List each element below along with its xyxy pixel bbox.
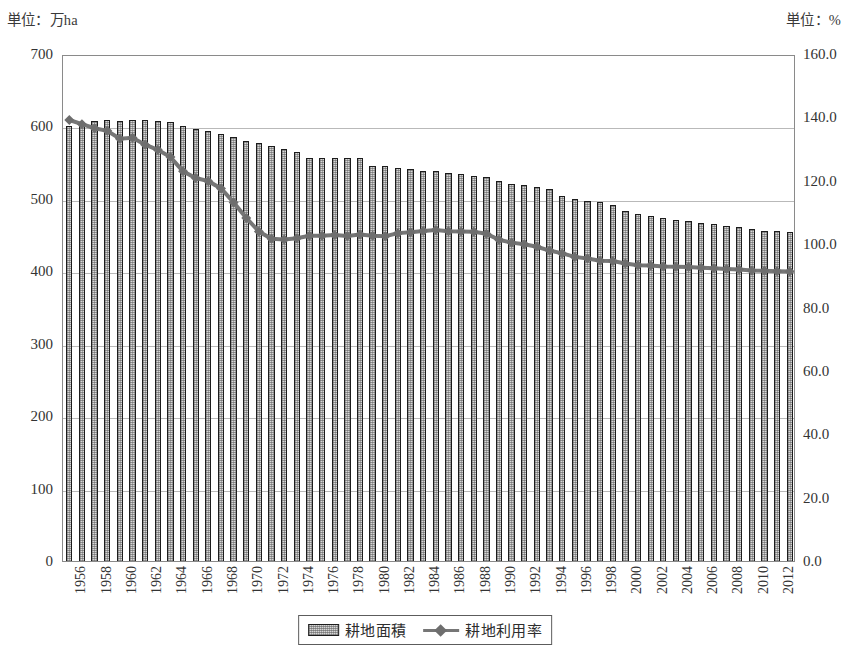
line-marker-diamond	[380, 231, 390, 241]
line-marker-diamond	[658, 261, 668, 271]
x-axis-tick-label: 1956	[74, 566, 88, 594]
line-marker-diamond	[747, 266, 757, 276]
right-axis-unit-label: 単位：%	[786, 8, 841, 29]
left-axis-unit-label: 単位：万ha	[7, 8, 78, 29]
line-marker-diamond	[330, 230, 340, 240]
legend-label-line: 耕地利用率	[465, 619, 542, 640]
line-marker-diamond	[646, 260, 656, 270]
right-axis-tick-label: 40.0	[803, 427, 829, 442]
line-marker-diamond	[77, 119, 87, 129]
line-marker-diamond	[633, 260, 643, 270]
x-axis-tick-label: 1968	[226, 566, 240, 594]
right-axis-tick-label: 60.0	[803, 364, 829, 379]
line-marker-diamond	[64, 115, 74, 125]
x-axis-tick-label: 2008	[731, 566, 745, 594]
line-marker-diamond	[368, 231, 378, 241]
line-marker-diamond	[456, 227, 466, 237]
right-axis-tick-label: 100.0	[803, 237, 837, 252]
line-marker-diamond	[90, 123, 100, 133]
line-marker-diamond	[785, 266, 795, 276]
x-axis-tick-label: 1962	[150, 566, 164, 594]
line-series-layer	[63, 56, 794, 561]
left-axis-tick-label: 300	[31, 337, 54, 352]
x-axis-tick-label: 1988	[479, 566, 493, 594]
line-marker-diamond	[507, 238, 517, 248]
right-axis-tick-label: 80.0	[803, 301, 829, 316]
right-axis-tick-label: 0.0	[803, 554, 822, 569]
x-axis-tick-label: 1994	[555, 566, 569, 594]
left-axis-tick-label: 0	[46, 554, 54, 569]
x-axis-tick-label: 1974	[302, 566, 316, 594]
x-axis-tick-label: 1992	[529, 566, 543, 594]
x-axis-tick-label: 1980	[378, 566, 392, 594]
line-marker-diamond	[557, 248, 567, 258]
x-axis-tick-label: 1978	[352, 566, 366, 594]
x-axis-tick-label: 1998	[605, 566, 619, 594]
line-series-svg	[63, 56, 795, 562]
left-axis-tick-label: 600	[31, 119, 54, 134]
x-axis-tick-label: 1966	[201, 566, 215, 594]
x-axis-tick-label: 1958	[100, 566, 114, 594]
line-marker-diamond	[393, 228, 403, 238]
line-marker-diamond	[342, 231, 352, 241]
left-axis-ticks: 0100200300400500600700	[0, 55, 53, 562]
line-marker-diamond	[696, 263, 706, 273]
x-axis-tick-label: 2000	[630, 566, 644, 594]
bar-swatch-icon	[308, 624, 339, 636]
line-marker-diamond	[519, 239, 529, 249]
x-axis-tick-label: 1970	[251, 566, 265, 594]
x-axis-tick-label: 1984	[428, 566, 442, 594]
legend-entry-bar: 耕地面積	[308, 619, 406, 640]
x-axis-tick-label: 1972	[277, 566, 291, 594]
line-marker-diamond	[279, 234, 289, 244]
legend-label-bar: 耕地面積	[345, 619, 406, 640]
right-axis-tick-label: 160.0	[803, 47, 837, 62]
line-marker-diamond	[759, 266, 769, 276]
right-axis-tick-label: 20.0	[803, 491, 829, 506]
x-axis-tick-label: 2004	[681, 566, 695, 594]
x-axis-tick-label: 1976	[327, 566, 341, 594]
line-marker-diamond	[721, 264, 731, 274]
x-axis-tick-label: 2010	[757, 566, 771, 594]
x-axis-tick-label: 1986	[453, 566, 467, 594]
line-marker-diamond	[418, 226, 428, 236]
legend: 耕地面積 耕地利用率	[298, 615, 552, 645]
line-marker-diamond	[570, 252, 580, 262]
line-marker-diamond	[304, 231, 314, 241]
line-marker-diamond	[443, 226, 453, 236]
line-marker-diamond	[431, 225, 441, 235]
right-axis-tick-label: 120.0	[803, 174, 837, 189]
line-marker-diamond	[582, 253, 592, 263]
left-axis-tick-label: 100	[31, 482, 54, 497]
line-swatch-icon	[423, 624, 459, 636]
legend-entry-line: 耕地利用率	[423, 619, 542, 640]
line-marker-diamond	[532, 242, 542, 252]
x-axis-tick-label: 1982	[403, 566, 417, 594]
x-axis-tick-label: 1964	[175, 566, 189, 594]
left-axis-tick-label: 400	[31, 264, 54, 279]
x-axis-tick-label: 1996	[580, 566, 594, 594]
line-marker-diamond	[684, 262, 694, 272]
line-marker-diamond	[595, 256, 605, 266]
line-marker-diamond	[772, 266, 782, 276]
line-marker-diamond	[608, 256, 618, 266]
x-axis-tick-label: 1990	[504, 566, 518, 594]
line-marker-diamond	[734, 265, 744, 275]
right-axis-tick-label: 140.0	[803, 110, 837, 125]
line-marker-diamond	[292, 233, 302, 243]
line-marker-diamond	[317, 231, 327, 241]
line-marker-diamond	[545, 246, 555, 256]
plot-area	[62, 55, 795, 562]
left-axis-tick-label: 700	[31, 47, 54, 62]
line-marker-diamond	[406, 227, 416, 237]
x-axis-tick-label: 2012	[782, 566, 796, 594]
cultivated-land-chart: 単位：万ha 単位：% 0100200300400500600700 0.020…	[0, 0, 850, 653]
left-axis-tick-label: 500	[31, 192, 54, 207]
line-marker-diamond	[620, 259, 630, 269]
x-axis-tick-label: 2002	[656, 566, 670, 594]
x-axis-tick-label: 2006	[706, 566, 720, 594]
line-marker-diamond	[671, 262, 681, 272]
line-marker-diamond	[709, 263, 719, 273]
right-axis-ticks: 0.020.040.060.080.0100.0120.0140.0160.0	[803, 55, 850, 562]
x-axis-tick-label: 1960	[125, 566, 139, 594]
